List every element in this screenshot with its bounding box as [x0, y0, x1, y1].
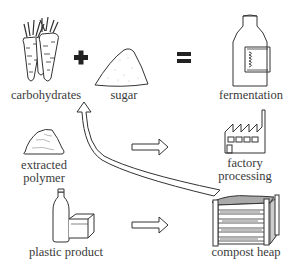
equals-operator — [177, 52, 191, 63]
polymer-lump-icon — [24, 129, 64, 154]
arrow-plastic-to-compost — [132, 217, 168, 233]
label-sugar: sugar — [102, 88, 146, 102]
label-extracted: extracted — [14, 158, 74, 172]
label-plastic-product: plastic product — [24, 245, 108, 259]
fermentation-bottle-icon — [233, 15, 270, 86]
label-factory: factory — [215, 156, 275, 170]
label-fermentation: fermentation — [210, 88, 292, 102]
diagram-canvas — [0, 0, 296, 270]
factory-icon — [225, 110, 265, 153]
sugar-pile-icon — [95, 49, 148, 86]
bottle-and-box-icon — [53, 189, 94, 242]
label-carbohydrates: carbohydrates — [4, 88, 88, 102]
label-compost-heap: compost heap — [206, 245, 286, 259]
plus-operator — [74, 51, 88, 65]
compost-bin-icon — [212, 195, 279, 246]
label-processing: processing — [210, 169, 280, 183]
label-polymer: polymer — [14, 171, 74, 185]
arrow-polymer-to-factory — [132, 139, 168, 155]
carrots-icon — [23, 17, 58, 81]
